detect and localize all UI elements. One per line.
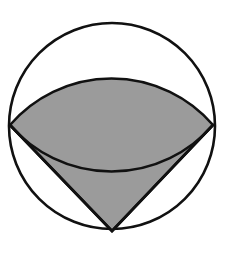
geometry-figure-svg [0, 0, 230, 253]
figure-canvas [0, 0, 230, 253]
